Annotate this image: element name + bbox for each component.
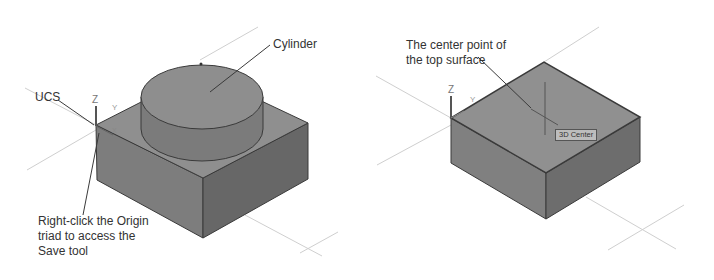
3d-center-tooltip: 3D Center xyxy=(555,129,597,141)
z-axis-label-left: Z xyxy=(92,94,98,105)
z-axis-label-right: Z xyxy=(448,84,454,95)
x-axis-label-left: X xyxy=(112,127,117,134)
ucs-label: UCS xyxy=(35,90,60,105)
y-axis-label-right: Y xyxy=(470,95,475,104)
y-axis-label-left: Y xyxy=(112,103,117,112)
center-point-label: The center point of the top surface xyxy=(406,38,506,68)
cylinder xyxy=(141,63,263,162)
cylinder-label: Cylinder xyxy=(273,37,317,52)
origin-triad-note: Right-click the Origin triad to access t… xyxy=(38,214,149,259)
